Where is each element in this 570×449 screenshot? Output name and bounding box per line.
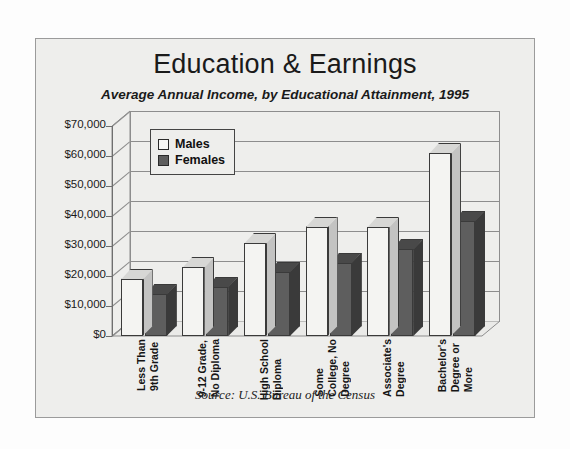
x-axis-category-line: Less Than [134,339,146,391]
bar-front-face [121,279,143,336]
legend-label-males: Males [175,137,210,151]
y-axis-tick [106,336,112,337]
chart-subtitle: Average Annual Income, by Educational At… [36,87,534,102]
bar-males [429,153,451,336]
chart-figure-panel: Education & Earnings Average Annual Inco… [35,38,535,418]
y-axis-tick-label: $30,000 [64,238,106,250]
y-axis-tick-label: $50,000 [64,178,106,190]
x-axis-category-3: High SchoolDiploma [238,339,302,431]
y-axis-tick-label: $60,000 [64,148,106,160]
x-axis-category-lines: Less Than9th Grade [134,339,159,391]
bar-front-face [429,153,451,336]
y-axis-tick-label: $40,000 [64,208,106,220]
bar-males [121,279,143,336]
bar-males [182,267,204,336]
bar-side-face [328,217,338,337]
bar-front-face [367,227,389,337]
y-axis-tick-label: $0 [93,328,106,340]
legend-swatch-females-icon [158,155,169,166]
bar-side-face [413,239,423,336]
legend-swatch-males-icon [158,139,169,150]
bar-front-face [306,227,328,337]
y-axis-labels: $70,000$60,000$50,000$40,000$30,000$20,0… [40,111,106,336]
bar-side-face [389,217,399,337]
bar-side-face [352,253,362,337]
x-axis-category-line: 9th Grade [147,339,159,391]
chart-title: Education & Earnings [36,49,534,80]
x-axis-category-4: SomeCollege, NoDegree [300,339,364,431]
bar-males [244,243,266,336]
bar-front-face [182,267,204,336]
legend-item-males: Males [158,137,225,151]
scanned-page: Education & Earnings Average Annual Inco… [0,0,570,449]
x-axis-category-2: 9-12 Grade,No Diploma [176,339,240,431]
bar-side-face [451,143,461,336]
x-axis-category-5: Associate'sDegree [361,339,425,431]
plot-area: $70,000$60,000$50,000$40,000$30,000$20,0… [112,111,500,336]
chart-legend: Males Females [150,129,235,175]
bar-males [306,227,328,337]
x-axis-category-line: More [462,339,474,392]
bar-side-face [204,257,214,336]
legend-label-females: Females [175,153,225,167]
bar-side-face [290,262,300,337]
x-axis-category-1: Less Than9th Grade [115,339,179,431]
chart-source-note: Source: U.S. Bureau of the Census [36,387,534,403]
y-axis-tick-label: $20,000 [64,268,106,280]
y-axis-tick-label: $70,000 [64,118,106,130]
bar-males [367,227,389,337]
bar-side-face [266,233,276,336]
bar-side-face [143,269,153,336]
bar-front-face [244,243,266,336]
bar-side-face [475,211,485,337]
x-axis-category-line: Degree or [449,339,461,392]
legend-item-females: Females [158,153,225,167]
x-axis-category-6: Bachelor'sDegree orMore [423,339,487,431]
x-axis-category-line: Bachelor's [436,339,448,392]
x-axis-category-lines: Bachelor'sDegree orMore [436,339,474,392]
y-axis-tick-label: $10,000 [64,298,106,310]
